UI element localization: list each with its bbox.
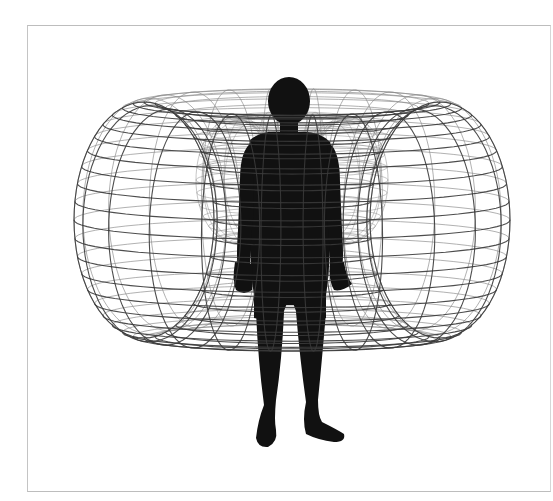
neck <box>280 118 298 134</box>
torus-ring-line <box>166 332 419 343</box>
torus-ring-line <box>122 332 461 347</box>
torus-diagram <box>0 0 553 501</box>
torus-meridian-line <box>343 112 435 348</box>
right-hand <box>330 262 353 290</box>
torus-meridian-line <box>149 112 241 348</box>
